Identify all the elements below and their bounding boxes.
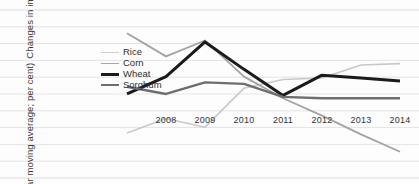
legend-swatch-wheat-icon — [101, 73, 119, 76]
series-lines-group — [127, 33, 400, 152]
legend-label-corn: Corn — [123, 58, 144, 68]
legend-swatch-corn-icon — [101, 63, 119, 64]
legend-item-corn: Corn — [101, 58, 162, 68]
legend-swatch-sorghum-icon — [101, 84, 119, 86]
legend-item-sorghum: Sorghum — [101, 80, 162, 90]
chart-figure: (3-year moving average; per cent) Change… — [0, 0, 419, 184]
line-chart-plot — [0, 0, 419, 184]
legend-swatch-rice-icon — [101, 52, 119, 53]
series-line-sorghum — [127, 82, 400, 98]
chart-legend: Rice Corn Wheat Sorghum — [101, 47, 162, 90]
gridlines-group — [0, 10, 419, 178]
legend-label-rice: Rice — [123, 47, 142, 57]
legend-item-rice: Rice — [101, 47, 162, 57]
legend-item-wheat: Wheat — [101, 69, 162, 79]
legend-label-wheat: Wheat — [123, 69, 150, 79]
legend-label-sorghum: Sorghum — [123, 80, 162, 90]
